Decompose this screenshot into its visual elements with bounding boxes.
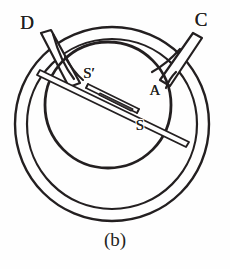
figure-caption: (b) [0,229,230,251]
label-pivot-s-prime: S′ [83,65,95,81]
label-terminal-d: D [20,12,34,33]
label-chamber-a: A [150,82,161,98]
label-needle-s: S [136,117,144,133]
label-terminal-c: C [195,9,208,30]
figure-container: D D C C S′ S′ A A S S (b) [0,0,230,269]
lead-tube-c [152,33,202,88]
